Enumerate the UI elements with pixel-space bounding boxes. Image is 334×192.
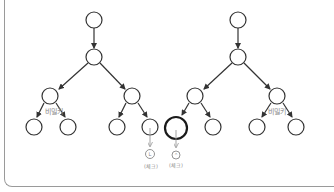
right-edge-label: 비밀키 — [268, 107, 286, 116]
left-annotation-symbol: L — [149, 151, 152, 157]
left-tree: 비밀키 L (체크) — [26, 12, 158, 170]
right-level2-left-node — [187, 88, 203, 104]
left-edge-label: 비밀키 — [45, 107, 63, 116]
edge-left-to-leaf1 — [182, 103, 189, 115]
right-annotation-label: (체크) — [169, 162, 183, 169]
right-level2-right-node — [269, 88, 285, 104]
edge-level1-to-left — [204, 63, 232, 89]
edge-right-to-leaf3 — [119, 103, 126, 117]
left-leaf-2-node — [60, 119, 76, 135]
edge-level1-to-left — [59, 63, 88, 89]
right-annotation-symbol: ⌃ — [174, 152, 178, 158]
left-level2-right-node — [124, 88, 140, 104]
edge-level1-to-right — [100, 63, 125, 89]
edge-left-to-leaf1 — [37, 103, 44, 117]
edge-right-to-leaf4 — [138, 103, 147, 117]
right-leaf-2-node — [205, 119, 221, 135]
right-root-node — [230, 12, 246, 28]
edge-left-to-leaf2 — [201, 103, 210, 117]
left-annotation-label: (체크) — [144, 163, 158, 170]
right-leaf-4-node — [288, 119, 304, 135]
left-leaf-3-node — [109, 119, 125, 135]
left-root-node — [86, 12, 102, 28]
edge-level1-to-right — [244, 63, 270, 89]
left-level1-node — [86, 49, 102, 65]
left-leaf-1-node — [26, 119, 42, 135]
left-level2-left-node — [42, 88, 58, 104]
right-tree: 비밀키 ⌃ (체크) — [165, 12, 304, 169]
right-leaf-3-node — [249, 119, 265, 135]
right-level1-node — [230, 49, 246, 65]
